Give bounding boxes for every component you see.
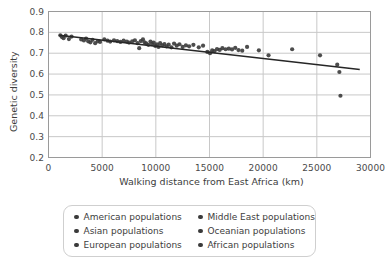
scatter-point	[201, 44, 205, 48]
scatter-point	[187, 44, 191, 48]
legend-marker-circle-icon	[198, 243, 203, 248]
x-tick-label: 30000	[356, 163, 385, 173]
scatter-point	[177, 42, 181, 46]
legend-item[interactable]: Oceanian populations	[198, 227, 327, 236]
legend-item-label: European populations	[84, 241, 182, 250]
scatter-point	[257, 48, 261, 52]
scatter-point	[245, 45, 249, 49]
scatter-point	[266, 53, 270, 57]
scatter-point	[191, 43, 195, 47]
scatter-point	[337, 70, 341, 74]
gridlines	[49, 12, 371, 158]
legend: American populationsMiddle East populati…	[63, 205, 316, 257]
legend-item-label: Middle East populations	[208, 213, 315, 222]
x-axis-title: Walking distance from East Africa (km)	[18, 176, 387, 187]
legend-item[interactable]: American populations	[74, 213, 198, 222]
x-tick-label: 0	[46, 163, 52, 173]
legend-item[interactable]: Asian populations	[74, 227, 198, 236]
y-tick-label: 0.8	[20, 27, 44, 37]
legend-marker-circle-icon	[74, 229, 79, 234]
scatter-point	[240, 49, 244, 53]
y-tick-label: 0.9	[20, 7, 44, 17]
x-tick-label: 15000	[195, 163, 224, 173]
scatter-point	[137, 46, 141, 50]
y-tick-label: 0.2	[20, 153, 44, 163]
legend-marker-circle-icon	[198, 229, 203, 234]
x-tick-label: 25000	[302, 163, 331, 173]
chart-plot-area: 0.20.30.40.50.60.70.80.9 050001000015000…	[0, 0, 387, 195]
y-tick-label: 0.6	[20, 69, 44, 79]
legend-item-label: Asian populations	[84, 227, 164, 236]
scatter-plot-figure: 0.20.30.40.50.60.70.80.9 050001000015000…	[0, 0, 387, 269]
scatter-point	[290, 47, 294, 51]
legend-item-label: African populations	[208, 241, 295, 250]
y-tick-label: 0.7	[20, 48, 44, 58]
y-tick-label: 0.4	[20, 111, 44, 121]
scatter-point	[318, 53, 322, 57]
legend-marker-circle-icon	[74, 243, 79, 248]
x-tick-label: 20000	[249, 163, 278, 173]
legend-marker-circle-icon	[198, 215, 203, 220]
y-axis-title: Genetic diversity	[8, 51, 19, 132]
legend-marker-circle-icon	[74, 215, 79, 220]
data-points	[58, 33, 342, 98]
legend-item-label: Oceanian populations	[208, 227, 306, 236]
legend-entries: American populationsMiddle East populati…	[64, 206, 315, 256]
legend-item[interactable]: Middle East populations	[198, 213, 327, 222]
legend-item[interactable]: European populations	[74, 241, 198, 250]
x-tick-label: 5000	[91, 163, 114, 173]
legend-item-label: American populations	[84, 213, 182, 222]
scatter-point	[197, 45, 201, 49]
legend-item[interactable]: African populations	[198, 241, 327, 250]
scatter-point	[236, 48, 240, 52]
scatter-point	[338, 94, 342, 98]
x-tick-label: 10000	[141, 163, 170, 173]
y-tick-label: 0.5	[20, 90, 44, 100]
y-tick-label: 0.3	[20, 132, 44, 142]
